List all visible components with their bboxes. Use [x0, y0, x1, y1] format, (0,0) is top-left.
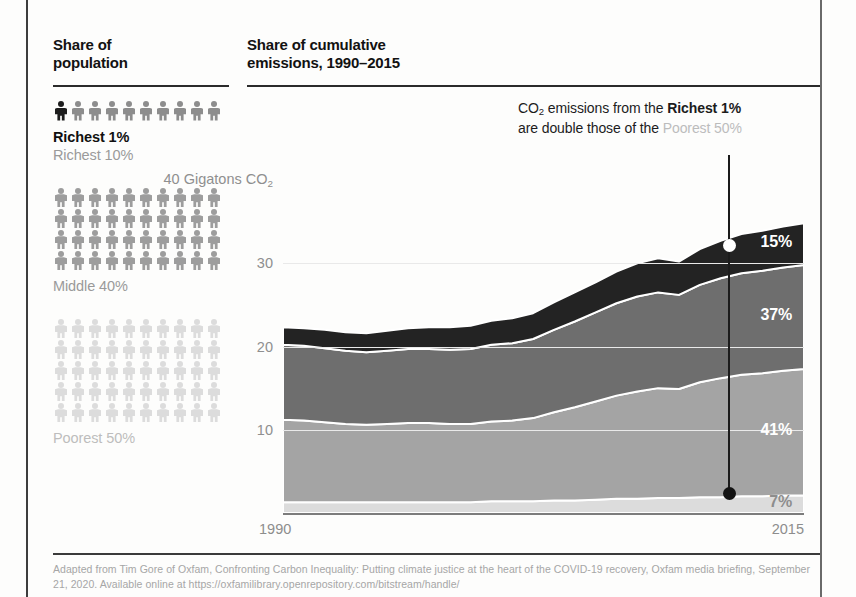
y-tick-30: 30 — [257, 255, 273, 271]
y-tick-10: 10 — [257, 422, 273, 438]
person-icon — [172, 187, 188, 207]
person-icon — [53, 360, 69, 380]
person-icon — [104, 402, 120, 422]
person-icon — [104, 339, 120, 359]
callout-richest-strong: Richest 1% — [667, 100, 741, 116]
page-right-border — [820, 0, 822, 597]
x-tick-end: 2015 — [772, 521, 804, 537]
person-icon — [104, 229, 120, 249]
chart-title-line2: emissions, 1990–2015 — [247, 54, 400, 71]
person-icon — [70, 402, 86, 422]
pictogram-group-middle40: Middle 40% — [53, 187, 229, 296]
person-icon — [87, 318, 103, 338]
pictogram-label-richest1-1: Richest 10% — [53, 146, 229, 165]
page-left-border — [26, 0, 28, 597]
callout-text-part1: emissions from the — [544, 100, 667, 116]
person-icon — [87, 229, 103, 249]
person-icon — [206, 187, 222, 207]
person-icon — [121, 339, 137, 359]
pictogram-row — [53, 187, 229, 207]
pictogram-label-poorest50-0: Poorest 50% — [53, 429, 229, 448]
person-icon — [70, 360, 86, 380]
pictogram-group-richest1: Richest 1%Richest 10% — [53, 101, 229, 166]
person-icon — [87, 208, 103, 228]
pictogram-row — [53, 381, 229, 401]
person-icon — [87, 187, 103, 207]
person-icon — [155, 402, 171, 422]
x-axis-line — [283, 513, 804, 515]
person-icon — [138, 318, 154, 338]
person-icon — [87, 402, 103, 422]
person-icon — [70, 250, 86, 270]
person-icon — [53, 229, 69, 249]
person-icon — [53, 187, 69, 207]
person-icon — [189, 339, 205, 359]
person-icon — [155, 318, 171, 338]
person-icon — [138, 250, 154, 270]
person-icon — [70, 187, 86, 207]
left-panel-divider — [53, 85, 229, 87]
pictogram-row — [53, 360, 229, 380]
y-tick-40: 40 Gigatons CO2 — [164, 171, 273, 188]
person-icon — [104, 250, 120, 270]
person-icon — [53, 339, 69, 359]
person-icon-highlighted — [53, 101, 69, 121]
person-icon — [206, 208, 222, 228]
person-icon — [189, 187, 205, 207]
person-icon — [189, 381, 205, 401]
person-icon — [189, 208, 205, 228]
person-icon — [70, 339, 86, 359]
person-icon — [138, 339, 154, 359]
person-icon — [155, 339, 171, 359]
share-of-population-panel: Share of population Richest 1%Richest 10… — [53, 36, 229, 448]
person-icon — [155, 381, 171, 401]
person-icon — [206, 101, 222, 121]
gridline-20 — [283, 347, 804, 348]
person-icon — [206, 402, 222, 422]
x-tick-start: 1990 — [259, 521, 291, 537]
person-icon — [155, 360, 171, 380]
annotation-leader-line — [728, 155, 730, 494]
person-icon — [87, 250, 103, 270]
person-icon — [104, 381, 120, 401]
person-icon — [155, 187, 171, 207]
annotation-dot-poorest — [723, 487, 736, 500]
callout-co2-label: CO2 — [518, 100, 544, 116]
callout-text-part2: are double those of the — [518, 120, 663, 136]
person-icon — [104, 208, 120, 228]
person-icon — [138, 360, 154, 380]
person-icon — [189, 360, 205, 380]
pictogram-row — [53, 208, 229, 228]
chart-panel-divider — [247, 85, 820, 87]
person-icon — [172, 318, 188, 338]
person-icon — [70, 101, 86, 121]
person-icon — [53, 208, 69, 228]
person-icon — [87, 339, 103, 359]
person-icon — [138, 402, 154, 422]
person-icon — [121, 250, 137, 270]
person-icon — [206, 339, 222, 359]
left-panel-title-line2: population — [53, 54, 128, 71]
callout-poorest-faint: Poorest 50% — [663, 120, 742, 136]
left-panel-title: Share of population — [53, 36, 229, 73]
person-icon — [53, 381, 69, 401]
band-label-richest-1: 15% — [761, 233, 792, 251]
person-icon — [121, 208, 137, 228]
pictogram-row — [53, 101, 229, 121]
person-icon — [121, 360, 137, 380]
person-icon — [189, 402, 205, 422]
source-footnote: Adapted from Tim Gore of Oxfam, Confront… — [53, 562, 823, 592]
person-icon — [155, 208, 171, 228]
band-label-poorest-50: 7% — [769, 493, 792, 511]
pictogram-stack: Richest 1%Richest 10%Middle 40%Poorest 5… — [53, 101, 229, 448]
person-icon — [104, 187, 120, 207]
person-icon — [53, 318, 69, 338]
pictogram-row — [53, 250, 229, 270]
person-icon — [189, 229, 205, 249]
person-icon — [104, 101, 120, 121]
person-icon — [189, 101, 205, 121]
chart-header: Share of cumulative emissions, 1990–2015 — [247, 36, 820, 87]
person-icon — [206, 318, 222, 338]
person-icon — [155, 101, 171, 121]
stacked-area-chart: 40 Gigatons CO2302010 1990 2015 7%41%37%… — [283, 180, 804, 513]
